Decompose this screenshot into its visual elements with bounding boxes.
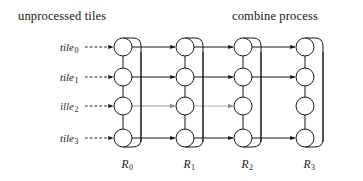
- column-label-r2-base: R: [241, 158, 248, 170]
- node-r2-tile1: [234, 68, 252, 86]
- node-r0-tile2: [114, 97, 132, 115]
- column-label-r3: R3: [303, 158, 314, 170]
- row-label-tile1: tile1: [16, 71, 78, 83]
- row-label-tile1-sub: 1: [75, 76, 79, 85]
- node-r3-tile3: [296, 129, 314, 147]
- row-label-tile3-base: tile: [60, 132, 74, 144]
- node-r3-tile1: [296, 68, 314, 86]
- node-r1-tile0: [176, 38, 194, 56]
- node-r3-tile2: [296, 97, 314, 115]
- column-label-r0-sub: 0: [129, 163, 133, 172]
- column-group-r1: [176, 38, 203, 147]
- node-r2-tile3: [234, 129, 252, 147]
- column-label-r1: R1: [183, 158, 194, 170]
- row-label-tile2: ille2: [16, 100, 78, 112]
- row-label-tile0: tile0: [16, 41, 78, 53]
- node-r1-tile2: [176, 97, 194, 115]
- column-label-r2: R2: [241, 158, 252, 170]
- column-group-r3: [296, 38, 323, 147]
- node-r0-tile3: [114, 129, 132, 147]
- row-label-tile0-base: tile: [60, 41, 74, 53]
- caption-combine-process: combine process: [232, 9, 318, 24]
- row-label-tile0-sub: 0: [75, 46, 79, 55]
- column-label-r3-base: R: [303, 158, 310, 170]
- row-label-tile1-base: tile: [60, 71, 74, 83]
- column-label-r0: R0: [121, 158, 132, 170]
- column-label-r1-sub: 1: [191, 163, 195, 172]
- node-r0-tile1: [114, 68, 132, 86]
- node-r1-tile1: [176, 68, 194, 86]
- node-r3-tile0: [296, 38, 314, 56]
- row-label-tile3: tile3: [16, 132, 78, 144]
- row-label-tile2-base: ille: [60, 100, 74, 112]
- row-label-tile3-sub: 3: [75, 137, 79, 146]
- column-label-r3-sub: 3: [311, 163, 315, 172]
- dashed-input-arrows: [85, 47, 113, 138]
- node-r2-tile2: [234, 97, 252, 115]
- column-group-r0: [114, 38, 141, 147]
- column-label-r2-sub: 2: [249, 163, 253, 172]
- node-r1-tile3: [176, 129, 194, 147]
- row-label-tile2-sub: 2: [75, 105, 79, 114]
- node-r0-tile0: [114, 38, 132, 56]
- transfer-arrows: [132, 47, 295, 138]
- column-label-r0-base: R: [121, 158, 128, 170]
- caption-unprocessed-tiles: unprocessed tiles: [18, 9, 106, 24]
- node-r2-tile0: [234, 38, 252, 56]
- column-label-r1-base: R: [183, 158, 190, 170]
- column-group-r2: [234, 38, 261, 147]
- combine-process-diagram: [0, 0, 363, 181]
